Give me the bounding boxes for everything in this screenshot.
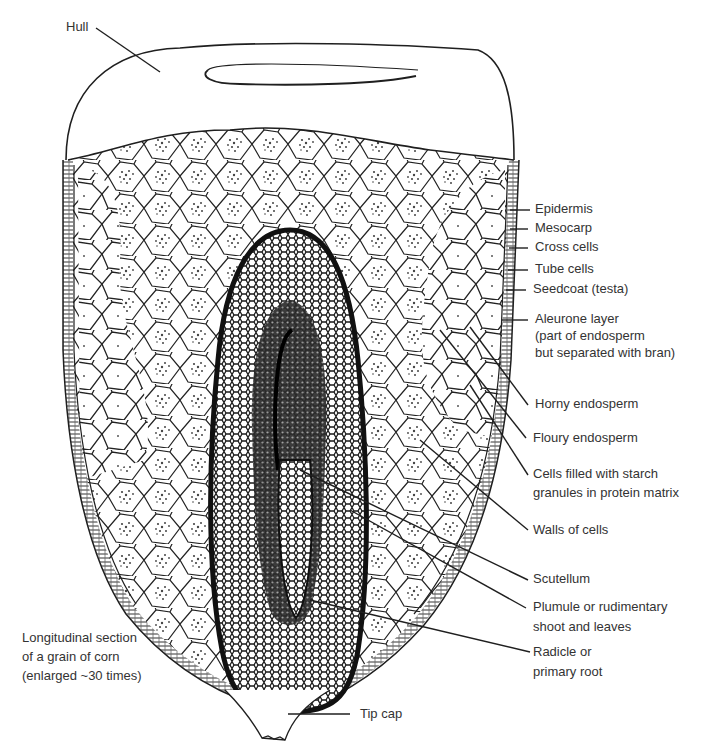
hull-crease-cap: [208, 64, 418, 70]
label-mesocarp: Mesocarp: [535, 220, 592, 236]
caption-line1: Longitudinal section: [22, 630, 137, 646]
label-radicle-line2: primary root: [533, 664, 602, 680]
tip-cap: [225, 690, 330, 740]
label-cross-cells: Cross cells: [535, 239, 599, 255]
hull-crease: [205, 70, 416, 85]
label-floury-endosperm: Floury endosperm: [533, 430, 638, 446]
label-walls-of-cells: Walls of cells: [533, 522, 608, 538]
label-aleurone-line3: but separated with bran): [535, 345, 675, 361]
label-scutellum: Scutellum: [533, 571, 590, 587]
label-tube-cells: Tube cells: [535, 261, 594, 277]
label-starch-cells-line1: Cells filled with starch: [533, 466, 658, 482]
label-epidermis: Epidermis: [535, 201, 593, 217]
label-hull: Hull: [66, 19, 88, 35]
label-tip-cap: Tip cap: [360, 706, 402, 722]
label-aleurone-line1: Aleurone layer: [535, 311, 619, 327]
label-plumule-line2: shoot and leaves: [533, 619, 631, 635]
label-seedcoat: Seedcoat (testa): [533, 281, 628, 297]
label-plumule-line1: Plumule or rudimentary: [533, 599, 667, 615]
label-horny-endosperm: Horny endosperm: [535, 396, 638, 412]
label-radicle-line1: Radicle or: [533, 644, 592, 660]
label-aleurone-line2: (part of endosperm: [535, 328, 645, 344]
caption-line3: (enlarged ~30 times): [22, 668, 142, 684]
caption-line2: of a grain of corn: [22, 649, 120, 665]
label-starch-cells-line2: granules in protein matrix: [533, 485, 679, 501]
